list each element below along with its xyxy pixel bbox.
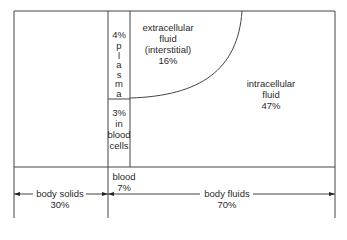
intracellular-percent: 47% [235,100,307,111]
extracellular-label: extracellular fluid (interstitial) 16% [132,22,204,66]
blood-cells-label: 3% in blood cells [106,107,132,151]
body-solids-text: body solids [30,188,90,199]
intracellular-line: fluid [235,89,307,100]
body-fluids-label: body fluids 70% [198,188,256,210]
plasma-letter: a [108,89,130,99]
blood-label: blood 7% [104,171,144,193]
extracellular-percent: 16% [132,55,204,66]
body-solids-label: body solids 30% [30,188,90,210]
plasma-label: p l a s m a [108,41,130,98]
body-solids-percent: 30% [30,199,90,210]
arrow-right-icon [329,192,335,196]
blood-text: blood [104,171,144,182]
extracellular-line: fluid [132,33,204,44]
plasma-percent: 4% [108,29,130,40]
body-fluids-percent: 70% [198,199,256,210]
blood-cells-line: in [106,118,132,129]
extracellular-line: (interstitial) [132,44,204,55]
blood-percent: 7% [104,182,144,193]
blood-cells-line: blood [106,129,132,140]
blood-cells-percent: 3% [106,107,132,118]
body-fluids-text: body fluids [198,188,256,199]
extracellular-line: extracellular [132,22,204,33]
blood-cells-line: cells [106,140,132,151]
arrow-left-icon [14,192,20,196]
intracellular-label: intracellular fluid 47% [235,78,307,111]
intracellular-line: intracellular [235,78,307,89]
